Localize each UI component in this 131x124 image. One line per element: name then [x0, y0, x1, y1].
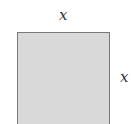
right-side-label: x — [120, 70, 128, 85]
square-shape — [17, 32, 110, 124]
top-side-label: x — [59, 8, 67, 23]
